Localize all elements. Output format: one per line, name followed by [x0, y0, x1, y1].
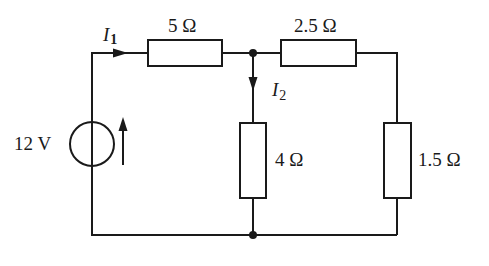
- junction-bottom-node: [249, 231, 257, 239]
- wire-top-left: [92, 53, 148, 122]
- circuit-svg: 12 V 5 Ω 2.5 Ω 4 Ω 1.5 Ω I1 I2: [0, 0, 489, 266]
- current-i1-label: I1: [102, 24, 117, 47]
- circuit-diagram: 12 V 5 Ω 2.5 Ω 4 Ω 1.5 Ω I1 I2: [0, 0, 489, 266]
- i1-arrow-icon: [113, 49, 128, 58]
- resistor-2-5-ohm-label: 2.5 Ω: [294, 15, 337, 36]
- resistor-1-5-ohm-label: 1.5 Ω: [418, 149, 461, 170]
- resistor-2-5-ohm: [281, 40, 356, 66]
- source-label: 12 V: [14, 133, 51, 154]
- resistor-4-ohm: [240, 123, 266, 198]
- i2-arrow-icon: [249, 77, 258, 91]
- wire-top-right: [356, 53, 397, 123]
- resistor-5-ohm-label: 5 Ω: [168, 15, 196, 36]
- source-direction-arrowhead-icon: [119, 117, 128, 131]
- junction-top-node: [249, 49, 257, 57]
- resistor-4-ohm-label: 4 Ω: [275, 149, 303, 170]
- resistor-5-ohm: [148, 40, 222, 66]
- current-i2-label: I2: [271, 79, 286, 103]
- resistor-1-5-ohm: [384, 123, 411, 198]
